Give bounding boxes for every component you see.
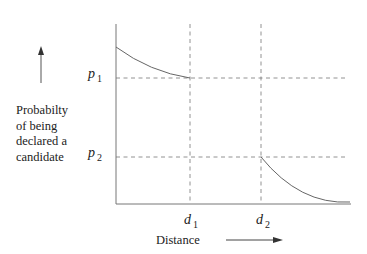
y-axis-label-line: of being — [16, 119, 68, 135]
tick-subscript: 1 — [97, 73, 102, 84]
tick-symbol: p — [88, 145, 95, 160]
tick-symbol: d — [256, 212, 263, 227]
tick-subscript: 2 — [265, 219, 270, 230]
tick-subscript: 2 — [97, 152, 102, 163]
right-arrow-icon — [226, 237, 283, 243]
tick-d1: d1 — [184, 212, 198, 230]
tick-d2: d2 — [256, 212, 270, 230]
curve-near — [116, 47, 190, 78]
y-axis-label-line: Probabilty — [16, 103, 68, 119]
y-axis-label-line: declared a — [16, 134, 68, 150]
tick-subscript: 1 — [193, 219, 198, 230]
tick-p2: p2 — [88, 145, 102, 163]
y-axis-label: Probabilty of being declared a candidate — [16, 103, 68, 165]
x-axis-label: Distance — [156, 233, 200, 248]
up-arrow-icon — [38, 46, 44, 83]
tick-symbol: p — [88, 66, 95, 81]
tick-p1: p1 — [88, 66, 102, 84]
tick-symbol: d — [184, 212, 191, 227]
y-axis-label-line: candidate — [16, 150, 68, 166]
curve-far — [261, 157, 350, 202]
